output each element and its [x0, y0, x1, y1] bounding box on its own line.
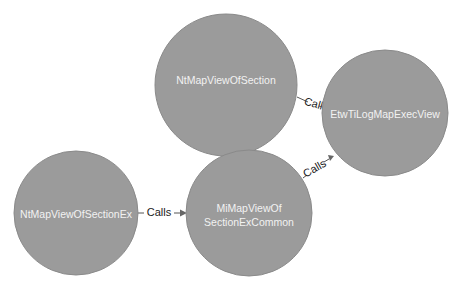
node-ntmapviewofsection: NtMapViewOfSection: [155, 14, 297, 156]
arrow-head-icon: [328, 155, 334, 161]
node-etwtilogmapexecview: EtwTiLogMapExecView: [322, 50, 448, 176]
call-graph-diagram: Calls Calls Calls NtMapViewOfSection Etw…: [0, 0, 460, 289]
edge-label: Calls: [301, 156, 329, 179]
edge-mimapviewofsectionexcommon-to-etwtilogmapexecview: Calls: [301, 155, 334, 179]
edge-label: Calls: [147, 206, 172, 218]
node-label: NtMapViewOfSection: [176, 74, 276, 86]
node-label-line-2: SectionExCommon: [204, 216, 294, 228]
edge-ntmapviewofsectionex-to-mimapviewofsectionexcommon: Calls: [138, 206, 187, 218]
node-ntmapviewofsectionex: NtMapViewOfSectionEx: [14, 151, 138, 275]
node-label: EtwTiLogMapExecView: [330, 108, 440, 120]
node-mimapviewofsectionexcommon: MiMapViewOf SectionExCommon: [186, 150, 312, 276]
edge-line: [324, 159, 329, 162]
node-label: NtMapViewOfSectionEx: [20, 208, 133, 220]
node-label-line-1: MiMapViewOf: [216, 202, 281, 214]
